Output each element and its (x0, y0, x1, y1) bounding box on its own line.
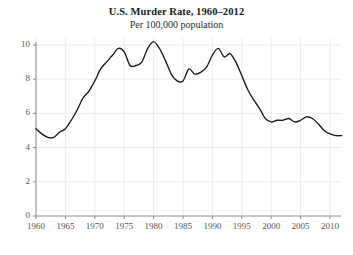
axis-lines (36, 42, 341, 216)
y-tick-label-0: 0 (8, 210, 30, 220)
y-tick-label-6: 6 (8, 107, 30, 117)
line-chart-plot (0, 0, 353, 255)
vertical-gridlines (36, 38, 330, 216)
y-tick-label-2: 2 (8, 176, 30, 186)
x-tick-label-2010: 2010 (310, 221, 350, 231)
y-tick-label-10: 10 (8, 39, 30, 49)
data-line-murder-rate (36, 42, 342, 138)
horizontal-gridlines (36, 45, 341, 182)
chart-figure: U.S. Murder Rate, 1960–2012 Per 100,000 … (0, 0, 353, 255)
y-tick-label-8: 8 (8, 73, 30, 83)
y-tick-label-4: 4 (8, 142, 30, 152)
axis-ticks (33, 45, 330, 219)
